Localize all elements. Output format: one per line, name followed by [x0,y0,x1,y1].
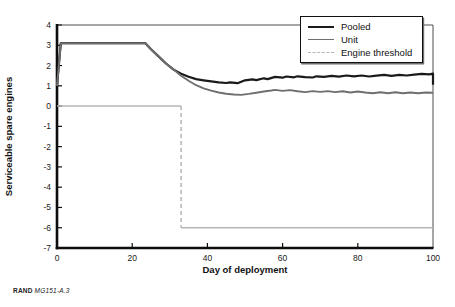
y-axis-title-wrap: Serviceable spare engines [1,25,17,248]
figure: 43210-1-2-3-4-5-6-7020406080100 Servicea… [0,0,455,307]
legend-label-pooled: Pooled [341,22,371,32]
y-tick-label: 1 [46,81,51,91]
legend-item-unit: Unit [308,34,417,45]
legend-item-engine-threshold: Engine threshold [308,47,417,58]
x-tick-label: 40 [203,253,213,263]
x-tick-label: 20 [127,253,137,263]
legend-label-unit: Unit [341,35,358,45]
y-tick-label: -3 [43,162,51,172]
figure-credit-doc: MG151-A.3 [35,287,70,294]
y-tick-label: -1 [43,121,51,131]
unit-line-swatch-icon [308,39,334,40]
legend: Pooled Unit Engine threshold [300,16,423,63]
y-tick-label: 4 [46,20,51,30]
y-tick-label: 0 [46,101,51,111]
y-tick-label: -5 [43,202,51,212]
y-tick-label: -4 [43,182,51,192]
x-tick-label: 60 [278,253,288,263]
legend-item-pooled: Pooled [308,21,417,32]
y-tick-label: -6 [43,223,51,233]
x-axis-title: Day of deployment [57,264,433,275]
x-tick-label: 0 [55,253,60,263]
figure-credit-brand: RAND [13,287,33,294]
y-tick-label: 3 [46,40,51,50]
y-tick-label: 2 [46,61,51,71]
pooled-line-swatch-icon [308,26,334,28]
x-tick-label: 80 [353,253,363,263]
x-tick-label: 100 [426,253,440,263]
figure-credit: RAND MG151-A.3 [13,287,70,294]
y-axis-title: Serviceable spare engines [4,77,15,196]
y-tick-label: -7 [43,243,51,253]
legend-label-engine-threshold: Engine threshold [341,48,412,58]
threshold-dashed-swatch-icon [308,52,334,53]
y-tick-label: -2 [43,142,51,152]
